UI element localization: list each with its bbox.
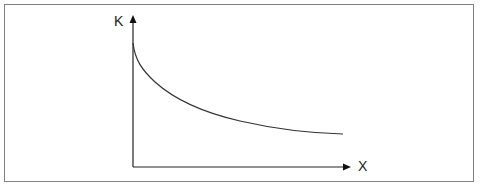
x-axis-arrow-icon bbox=[343, 164, 351, 171]
diagram-canvas bbox=[0, 0, 480, 188]
x-axis-label: X bbox=[358, 159, 367, 173]
y-axis-arrow-icon bbox=[130, 15, 137, 23]
y-axis-label: K bbox=[114, 14, 123, 28]
k-curve bbox=[133, 43, 343, 134]
